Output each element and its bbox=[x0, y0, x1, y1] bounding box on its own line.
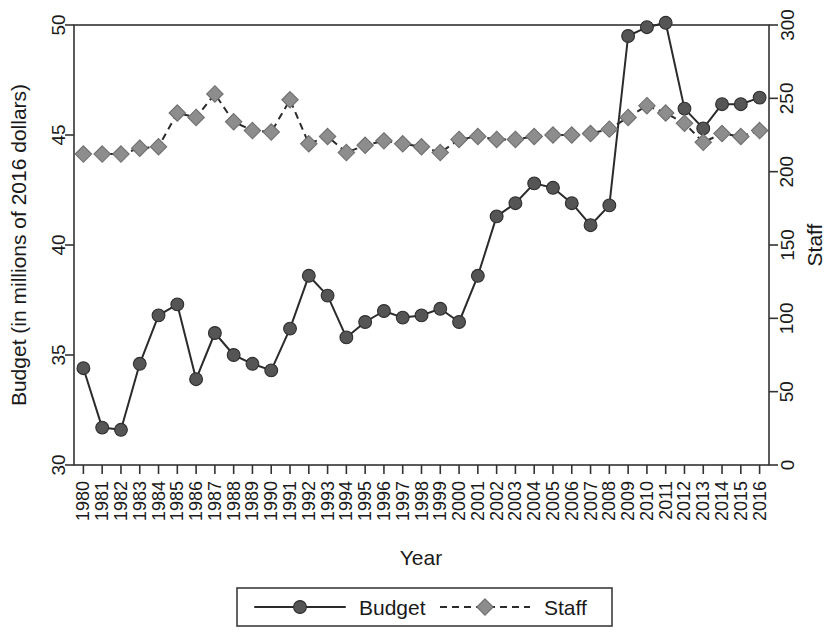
data-point-budget bbox=[77, 362, 90, 375]
y-tick-label-right: 150 bbox=[777, 229, 798, 261]
data-point-budget bbox=[509, 197, 522, 210]
y-tick-label-right: 100 bbox=[777, 302, 798, 334]
data-point-staff bbox=[564, 127, 580, 143]
data-point-budget bbox=[490, 210, 503, 223]
data-point-staff bbox=[470, 128, 486, 144]
data-point-budget bbox=[678, 102, 691, 115]
x-tick-label: 1986 bbox=[186, 481, 206, 521]
data-point-staff bbox=[338, 144, 354, 160]
data-point-budget bbox=[603, 199, 616, 212]
data-point-staff bbox=[507, 131, 523, 147]
data-point-budget bbox=[547, 181, 560, 194]
data-point-budget bbox=[716, 98, 729, 111]
data-point-budget bbox=[284, 322, 297, 335]
data-point-budget bbox=[265, 364, 278, 377]
y-tick-label-left: 45 bbox=[48, 124, 69, 145]
x-tick-label: 1993 bbox=[318, 481, 338, 521]
x-tick-label: 2016 bbox=[750, 481, 770, 521]
x-tick-label: 1996 bbox=[374, 481, 394, 521]
data-point-staff bbox=[545, 127, 561, 143]
data-point-budget bbox=[453, 316, 466, 329]
x-tick-label: 1999 bbox=[430, 481, 450, 521]
data-point-budget bbox=[115, 423, 128, 436]
x-axis-title: Year bbox=[400, 546, 442, 569]
y-tick-label-left: 30 bbox=[48, 454, 69, 475]
data-series-group bbox=[75, 16, 768, 436]
data-point-staff bbox=[357, 137, 373, 153]
data-point-budget bbox=[190, 373, 203, 386]
data-point-budget bbox=[227, 349, 240, 362]
x-tick-label: 1997 bbox=[393, 481, 413, 521]
y-axis-right-title: Staff bbox=[803, 223, 826, 266]
x-tick-label: 2006 bbox=[562, 481, 582, 521]
legend-marker-budget bbox=[294, 601, 307, 614]
data-point-staff bbox=[714, 125, 730, 141]
budget-staff-line-chart: 3035404550 050100150200250300 1980198119… bbox=[0, 0, 838, 636]
data-point-staff bbox=[432, 144, 448, 160]
x-tick-label: 2015 bbox=[731, 481, 751, 521]
data-point-staff bbox=[132, 140, 148, 156]
data-point-staff bbox=[169, 105, 185, 121]
y-tick-label-left: 40 bbox=[48, 234, 69, 255]
legend-label-budget: Budget bbox=[359, 596, 426, 619]
data-point-staff bbox=[244, 122, 260, 138]
data-point-budget bbox=[415, 309, 428, 322]
x-tick-label: 1985 bbox=[167, 481, 187, 521]
x-tick-label: 2000 bbox=[449, 481, 469, 521]
y-tick-label-right: 200 bbox=[777, 156, 798, 188]
data-point-staff bbox=[188, 109, 204, 125]
data-point-budget bbox=[246, 357, 259, 370]
x-tick-label: 1988 bbox=[224, 481, 244, 521]
x-tick-label: 1981 bbox=[92, 481, 112, 521]
y-tick-label-left: 35 bbox=[48, 344, 69, 365]
data-point-staff bbox=[301, 136, 317, 152]
x-tick-label: 2010 bbox=[637, 481, 657, 521]
data-point-budget bbox=[396, 311, 409, 324]
data-point-budget bbox=[622, 30, 635, 43]
chart-legend: BudgetStaff bbox=[237, 588, 612, 626]
data-point-staff bbox=[150, 139, 166, 155]
x-tick-label: 1989 bbox=[242, 481, 262, 521]
data-point-budget bbox=[753, 91, 766, 104]
x-tick-label: 1980 bbox=[73, 481, 93, 521]
data-point-budget bbox=[697, 122, 710, 135]
data-point-staff bbox=[639, 97, 655, 113]
data-point-staff bbox=[207, 86, 223, 102]
data-point-budget bbox=[434, 302, 447, 315]
chart-figure: 3035404550 050100150200250300 1980198119… bbox=[0, 0, 838, 636]
data-point-budget bbox=[133, 357, 146, 370]
data-point-staff bbox=[282, 92, 298, 108]
data-point-budget bbox=[378, 305, 391, 318]
data-point-budget bbox=[528, 177, 541, 190]
x-tick-label: 1995 bbox=[355, 481, 375, 521]
x-tick-label: 1987 bbox=[205, 481, 225, 521]
data-point-budget bbox=[171, 298, 184, 311]
data-point-staff bbox=[75, 146, 91, 162]
x-tick-label: 1983 bbox=[130, 481, 150, 521]
data-point-budget bbox=[340, 331, 353, 344]
x-tick-label: 2011 bbox=[656, 481, 676, 520]
x-tick-label: 1990 bbox=[261, 481, 281, 521]
y-tick-label-right: 300 bbox=[777, 9, 798, 41]
y-axis-left: 3035404550 bbox=[48, 14, 75, 475]
y-tick-label-right: 0 bbox=[777, 460, 798, 471]
data-point-staff bbox=[695, 134, 711, 150]
data-point-staff bbox=[395, 136, 411, 152]
data-point-staff bbox=[733, 128, 749, 144]
x-tick-label: 2007 bbox=[581, 481, 601, 521]
data-point-staff bbox=[263, 124, 279, 140]
data-point-staff bbox=[620, 109, 636, 125]
data-point-staff bbox=[376, 133, 392, 149]
x-tick-label: 2009 bbox=[618, 481, 638, 521]
data-point-budget bbox=[641, 21, 654, 34]
plot-frame bbox=[74, 25, 769, 465]
y-tick-label-left: 50 bbox=[48, 14, 69, 35]
data-point-budget bbox=[208, 327, 221, 340]
data-point-staff bbox=[94, 146, 110, 162]
data-point-staff bbox=[582, 125, 598, 141]
data-point-budget bbox=[321, 289, 334, 302]
data-point-budget bbox=[659, 16, 672, 29]
x-tick-label: 1991 bbox=[280, 481, 300, 521]
data-point-budget bbox=[471, 269, 484, 282]
x-tick-label: 2005 bbox=[543, 481, 563, 521]
